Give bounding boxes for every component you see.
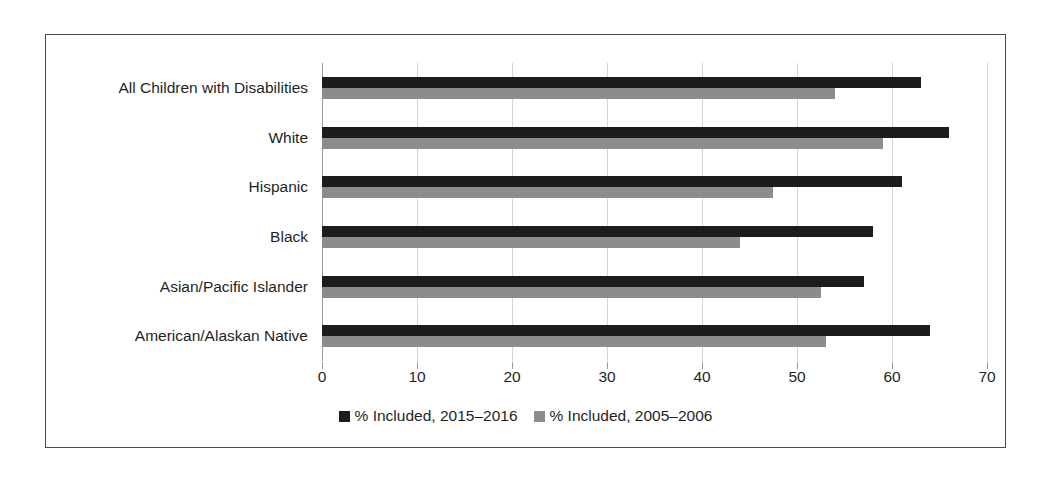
bar-recent bbox=[322, 276, 864, 287]
tick-label-30: 30 bbox=[598, 369, 615, 385]
category-label: White bbox=[268, 130, 308, 146]
gridline-30 bbox=[607, 63, 608, 361]
bar-older bbox=[322, 237, 740, 248]
chart-legend: % Included, 2015–2016% Included, 2005–20… bbox=[46, 407, 1005, 425]
bar-group bbox=[322, 127, 987, 149]
gridline-10 bbox=[417, 63, 418, 361]
bar-recent bbox=[322, 325, 930, 336]
value-axis-tick-labels: 010203040506070 bbox=[322, 369, 987, 393]
legend-item[interactable]: % Included, 2015–2016 bbox=[339, 407, 518, 425]
tick-label-10: 10 bbox=[408, 369, 425, 385]
legend-item[interactable]: % Included, 2005–2006 bbox=[534, 407, 713, 425]
category-label: Black bbox=[270, 229, 308, 245]
gridline-40 bbox=[702, 63, 703, 361]
tick-label-20: 20 bbox=[503, 369, 520, 385]
tick-label-70: 70 bbox=[978, 369, 995, 385]
category-label: American/Alaskan Native bbox=[135, 328, 308, 344]
legend-swatch-icon bbox=[534, 411, 545, 422]
tick-label-50: 50 bbox=[788, 369, 805, 385]
bar-older bbox=[322, 88, 835, 99]
legend-label: % Included, 2015–2016 bbox=[355, 407, 518, 425]
bar-older bbox=[322, 287, 821, 298]
gridline-0 bbox=[322, 63, 323, 361]
bar-older bbox=[322, 336, 826, 347]
gridline-60 bbox=[892, 63, 893, 361]
category-label: Hispanic bbox=[249, 179, 308, 195]
bar-group bbox=[322, 325, 987, 347]
bar-recent bbox=[322, 77, 921, 88]
gridline-70 bbox=[987, 63, 988, 361]
bar-older bbox=[322, 187, 773, 198]
tick-label-40: 40 bbox=[693, 369, 710, 385]
bar-group bbox=[322, 176, 987, 198]
plot-area bbox=[322, 63, 987, 361]
bar-recent bbox=[322, 127, 949, 138]
tick-label-0: 0 bbox=[318, 369, 327, 385]
category-label: Asian/Pacific Islander bbox=[160, 279, 308, 295]
bar-group bbox=[322, 276, 987, 298]
legend-swatch-icon bbox=[339, 411, 350, 422]
bar-older bbox=[322, 138, 883, 149]
bar-group bbox=[322, 226, 987, 248]
category-axis-labels: All Children with DisabilitiesWhiteHispa… bbox=[46, 63, 318, 361]
gridline-20 bbox=[512, 63, 513, 361]
bar-recent bbox=[322, 226, 873, 237]
chart-frame: All Children with DisabilitiesWhiteHispa… bbox=[45, 34, 1006, 448]
gridline-50 bbox=[797, 63, 798, 361]
tick-label-60: 60 bbox=[883, 369, 900, 385]
legend-label: % Included, 2005–2006 bbox=[550, 407, 713, 425]
category-label: All Children with Disabilities bbox=[118, 80, 308, 96]
bar-recent bbox=[322, 176, 902, 187]
bar-group bbox=[322, 77, 987, 99]
